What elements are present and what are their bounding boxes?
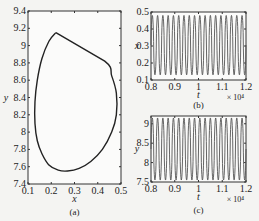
y-tick-label: 0.5 xyxy=(137,6,150,17)
x-multiplier: × 10⁴ xyxy=(227,93,245,102)
y-tick-label: 7.8 xyxy=(14,143,27,154)
y-tick-label: 8.2 xyxy=(14,109,27,120)
y-tick-label: 9 xyxy=(21,40,26,51)
y-tick-label: 8 xyxy=(21,126,26,137)
x-tick-label: 1.2 xyxy=(240,183,253,194)
chart-panel-b: 0.80.911.11.20.10.20.30.40.5tx× 10⁴(b) xyxy=(134,6,252,110)
x-tick-label: 0.9 xyxy=(169,183,182,194)
y-tick-label: 0.2 xyxy=(137,57,150,68)
y-tick-label: 9.4 xyxy=(14,5,27,16)
chart-panel-c: 0.80.911.11.27.588.59ty× 10⁴(c) xyxy=(134,116,252,215)
x-tick-label: 0.2 xyxy=(45,185,58,196)
y-tick-label: 0.1 xyxy=(137,74,150,85)
panel-caption: (c) xyxy=(194,205,204,215)
y-tick-label: 7.4 xyxy=(14,178,27,189)
panel-caption: (a) xyxy=(70,207,80,217)
x-tick-label: 0.9 xyxy=(169,81,182,92)
x-axis-label: x xyxy=(71,193,77,204)
x-axis-label: t xyxy=(197,89,200,100)
y-axis-label: x xyxy=(134,40,140,51)
x-tick-label: 0.4 xyxy=(92,185,105,196)
x-tick-label: 1.1 xyxy=(216,81,229,92)
y-tick-label: 8.8 xyxy=(14,57,27,68)
y-tick-label: 9 xyxy=(144,118,149,129)
y-tick-label: 7.5 xyxy=(137,176,150,187)
y-tick-label: 9.2 xyxy=(14,22,27,33)
x-multiplier: × 10⁴ xyxy=(227,195,245,204)
y-tick-label: 8.6 xyxy=(14,74,27,85)
x-tick-label: 1.1 xyxy=(216,183,229,194)
x-tick-label: 1.2 xyxy=(240,81,253,92)
y-axis-label: y xyxy=(3,92,9,103)
plot-frame xyxy=(28,11,121,184)
x-axis-label: t xyxy=(197,191,200,202)
y-tick-label: 0.4 xyxy=(137,23,150,34)
x-tick-label: 0.5 xyxy=(115,185,128,196)
y-tick-label: 7.6 xyxy=(14,161,27,172)
panel-caption: (b) xyxy=(193,100,204,110)
y-tick-label: 8 xyxy=(144,157,149,168)
y-tick-label: 8.4 xyxy=(14,92,27,103)
chart-panel-a: 0.10.20.30.40.57.47.67.888.28.48.68.899.… xyxy=(3,5,127,217)
y-axis-label: y xyxy=(134,143,140,154)
figure: 0.10.20.30.40.57.47.67.888.28.48.68.899.… xyxy=(0,0,259,221)
